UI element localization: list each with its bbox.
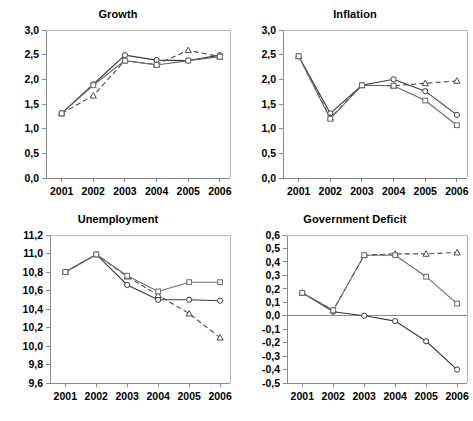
panel-unemployment: Unemployment 9,69,810,010,210,410,610,81…	[0, 213, 236, 421]
y-tick-label: 0,0	[261, 172, 276, 184]
y-tick-label: 11,0	[23, 247, 43, 259]
data-point-marker-square	[154, 63, 159, 68]
data-point-marker-square	[296, 54, 301, 59]
data-point-marker-circle	[362, 313, 367, 318]
x-tick-label: 2001	[54, 390, 78, 402]
x-tick-label: 2002	[85, 390, 109, 402]
data-point-marker-square	[94, 252, 99, 257]
data-point-marker-square	[331, 308, 336, 313]
x-tick-label: 2006	[445, 185, 469, 197]
y-tick-label: 0,1	[265, 296, 280, 308]
data-point-marker-square	[455, 301, 460, 306]
x-tick-label: 2004	[382, 185, 406, 197]
series-line-triangle	[302, 252, 457, 310]
x-tick-label: 2004	[145, 185, 169, 197]
series-line-square	[299, 56, 457, 125]
x-tick-label: 2005	[414, 390, 438, 402]
y-tick-label: 0,0	[265, 309, 280, 321]
x-tick-label: 2003	[116, 390, 140, 402]
data-point-marker-square	[391, 83, 396, 88]
x-tick-label: 2003	[113, 185, 137, 197]
data-point-marker-square	[218, 280, 223, 285]
y-tick-label: -0,2	[262, 336, 280, 348]
series-line-triangle	[65, 254, 220, 337]
series-line-circle	[302, 293, 457, 370]
y-tick-label: 3,0	[24, 24, 39, 36]
y-tick-label: 1,0	[24, 122, 39, 134]
y-tick-label: 0,4	[265, 256, 280, 268]
data-point-marker-square	[186, 58, 191, 63]
data-point-marker-square	[454, 123, 459, 128]
y-tick-label: 2,0	[261, 73, 276, 85]
data-point-marker-square	[328, 116, 333, 121]
data-point-marker-triangle	[90, 93, 96, 99]
data-point-marker-square	[156, 289, 161, 294]
panel-title-inflation: Inflation	[237, 8, 473, 20]
x-tick-label: 2005	[177, 185, 201, 197]
y-tick-label: 0,5	[24, 147, 39, 159]
data-point-marker-circle	[187, 297, 192, 302]
panel-title-government-deficit: Government Deficit	[237, 213, 473, 225]
x-tick-label: 2003	[350, 185, 374, 197]
series-line-triangle	[299, 56, 457, 118]
chart-figure: Growth 0,00,51,01,52,02,53,0200120022003…	[0, 0, 473, 421]
data-point-marker-square	[424, 274, 429, 279]
x-tick-label: 2006	[445, 390, 469, 402]
y-tick-label: 10,6	[23, 284, 44, 296]
y-tick-label: 0,6	[265, 229, 280, 241]
data-point-marker-circle	[218, 298, 223, 303]
y-tick-label: 2,5	[24, 48, 39, 60]
data-point-marker-circle	[391, 77, 396, 82]
y-tick-label: -0,5	[262, 377, 280, 389]
plot-area-growth: 0,00,51,01,52,02,53,02001200220032004200…	[0, 22, 236, 212]
x-tick-label: 2001	[291, 390, 315, 402]
plot-area-inflation: 0,00,51,01,52,02,53,02001200220032004200…	[237, 22, 473, 212]
y-tick-label: 0,2	[265, 283, 280, 295]
x-tick-label: 2006	[208, 390, 232, 402]
y-tick-label: 2,5	[261, 48, 276, 60]
plot-area-government-deficit: -0,5-0,4-0,3-0,2-0,10,00,10,20,30,40,50,…	[237, 227, 473, 419]
data-point-marker-circle	[455, 367, 460, 372]
series-line-square	[62, 57, 220, 114]
y-tick-label: 1,5	[24, 98, 39, 110]
x-tick-label: 2003	[353, 390, 377, 402]
data-point-marker-square	[393, 253, 398, 258]
x-tick-label: 2004	[147, 390, 171, 402]
y-tick-label: 2,0	[24, 73, 39, 85]
y-tick-label: 0,0	[24, 172, 39, 184]
panel-title-unemployment: Unemployment	[0, 213, 236, 225]
data-point-marker-square	[362, 253, 367, 258]
data-point-marker-square	[300, 290, 305, 295]
data-point-marker-square	[123, 58, 128, 63]
y-tick-label: 9,8	[28, 358, 43, 370]
y-tick-label: 3,0	[261, 24, 276, 36]
plot-area-unemployment: 9,69,810,010,210,410,610,811,011,2200120…	[0, 227, 236, 419]
y-tick-label: -0,1	[262, 323, 280, 335]
y-tick-label: 10,0	[23, 340, 44, 352]
data-point-marker-square	[217, 54, 222, 59]
x-tick-label: 2006	[208, 185, 232, 197]
series-line-circle	[62, 55, 220, 113]
data-point-marker-triangle	[186, 311, 192, 317]
panel-title-growth: Growth	[0, 8, 236, 20]
y-tick-label: 10,2	[23, 321, 44, 333]
data-point-marker-circle	[424, 339, 429, 344]
x-tick-label: 2001	[287, 185, 311, 197]
y-tick-label: 10,8	[23, 266, 44, 278]
y-tick-label: 0,5	[265, 242, 280, 254]
x-tick-label: 2005	[414, 185, 438, 197]
x-tick-label: 2002	[322, 390, 346, 402]
x-tick-label: 2001	[50, 185, 74, 197]
panel-government-deficit: Government Deficit -0,5-0,4-0,3-0,2-0,10…	[237, 213, 473, 421]
y-tick-label: 1,5	[261, 98, 276, 110]
x-tick-label: 2005	[177, 390, 201, 402]
data-point-marker-square	[423, 98, 428, 103]
series-line-square	[302, 255, 457, 310]
y-tick-label: 0,5	[261, 147, 276, 159]
panel-growth: Growth 0,00,51,01,52,02,53,0200120022003…	[0, 8, 236, 213]
data-point-marker-triangle	[185, 47, 191, 53]
data-point-marker-square	[125, 273, 130, 278]
data-point-marker-square	[59, 111, 64, 116]
data-point-marker-square	[63, 270, 68, 275]
panel-inflation: Inflation 0,00,51,01,52,02,53,0200120022…	[237, 8, 473, 213]
